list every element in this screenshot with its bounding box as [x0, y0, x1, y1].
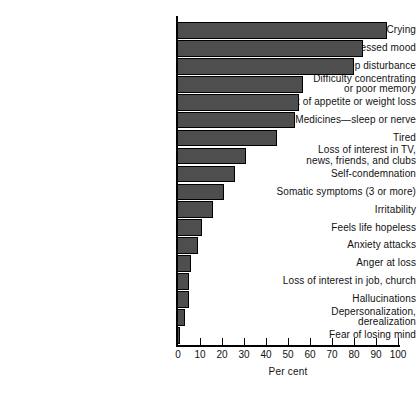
x-tick	[354, 338, 355, 345]
bar	[178, 94, 299, 111]
bar-row	[178, 112, 398, 129]
bar-row	[178, 309, 398, 326]
x-axis-line	[178, 345, 400, 347]
x-tick	[266, 338, 267, 345]
bar	[178, 112, 295, 129]
bar	[178, 40, 363, 57]
x-tick	[398, 338, 399, 345]
bar-row	[178, 76, 398, 93]
x-tick	[222, 338, 223, 345]
bar-row	[178, 130, 398, 147]
bar	[178, 327, 180, 344]
bar-row	[178, 40, 398, 57]
bar-row	[178, 273, 398, 290]
x-axis-title: Per cent	[178, 366, 398, 377]
bar	[178, 22, 387, 39]
bar-row	[178, 291, 398, 308]
bar	[178, 255, 191, 272]
bar	[178, 130, 277, 147]
bar	[178, 237, 198, 254]
bar	[178, 58, 354, 75]
x-tick	[244, 338, 245, 345]
bar	[178, 219, 202, 236]
bar	[178, 184, 224, 201]
bar	[178, 166, 235, 183]
x-tick-label: 100	[383, 349, 413, 360]
bar-chart-figure: CryingDepressed moodSleep disturbanceDif…	[0, 0, 420, 396]
bars-container	[178, 22, 398, 345]
x-tick	[332, 338, 333, 345]
bar-row	[178, 184, 398, 201]
bar	[178, 76, 303, 93]
bar-row	[178, 237, 398, 254]
bar-row	[178, 58, 398, 75]
bar-row	[178, 219, 398, 236]
x-tick	[288, 338, 289, 345]
bar	[178, 148, 246, 165]
bar-row	[178, 166, 398, 183]
x-tick	[200, 338, 201, 345]
bar	[178, 309, 185, 326]
bar	[178, 201, 213, 218]
bar-row	[178, 148, 398, 165]
bar-row	[178, 94, 398, 111]
bar	[178, 273, 189, 290]
bar-row	[178, 201, 398, 218]
x-tick	[310, 338, 311, 345]
x-tick	[376, 338, 377, 345]
bar	[178, 291, 189, 308]
bar-row	[178, 255, 398, 272]
bar-row	[178, 22, 398, 39]
